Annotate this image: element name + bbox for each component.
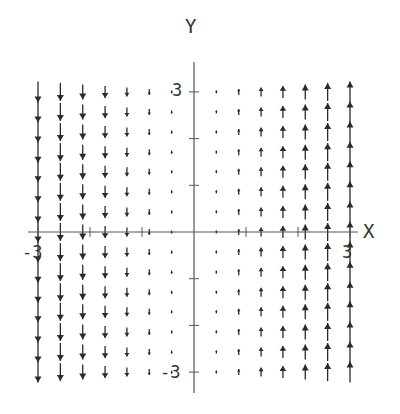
vector-arrow: [79, 164, 86, 179]
vector-arrow: [79, 184, 86, 199]
vector-arrow: [35, 201, 42, 222]
vector-arrow: [302, 265, 309, 280]
vector-field-plot: Y X -3 3 3 -3: [0, 0, 400, 414]
vector-arrow: [79, 365, 86, 380]
vector-arrow: [170, 131, 172, 134]
vector-arrow: [148, 269, 151, 275]
vector-arrow: [148, 249, 151, 255]
vector-arrow: [259, 288, 264, 297]
vector-arrow: [35, 301, 42, 322]
vector-arrow: [259, 368, 264, 377]
vector-arrow: [259, 327, 264, 336]
vector-arrow: [35, 181, 42, 202]
vector-arrow: [280, 366, 287, 378]
vector-arrow: [35, 161, 42, 182]
vector-arrow: [102, 186, 109, 198]
vector-arrow: [259, 348, 264, 357]
vector-arrow: [124, 348, 129, 357]
vector-arrow: [124, 148, 129, 157]
vector-arrow: [170, 351, 172, 354]
vector-arrow: [124, 368, 129, 377]
vector-arrow: [347, 282, 354, 303]
vector-arrow: [259, 207, 264, 216]
vector-arrow: [237, 209, 240, 215]
vector-arrow: [302, 324, 309, 339]
vector-arrow: [324, 303, 331, 321]
vector-arrow: [170, 251, 172, 254]
vector-arrow: [280, 86, 287, 98]
vector-arrow: [215, 351, 217, 354]
y-max-tick-label: 3: [172, 80, 182, 100]
vector-arrow: [79, 84, 86, 99]
vector-arrow: [302, 104, 309, 119]
vector-arrow: [280, 326, 287, 338]
vector-arrow: [215, 210, 217, 213]
vector-arrow: [57, 163, 64, 181]
vector-arrow: [237, 329, 240, 335]
vector-arrow: [347, 301, 354, 322]
vector-arrow: [347, 81, 354, 102]
vector-arrow: [102, 166, 109, 178]
vector-arrow: [102, 366, 109, 378]
vector-arrow: [215, 190, 217, 193]
vector-arrow: [324, 323, 331, 341]
vector-arrow: [237, 369, 240, 375]
vector-arrow: [102, 346, 109, 358]
vector-arrow: [302, 304, 309, 319]
vector-arrow: [237, 189, 240, 195]
vector-arrow: [102, 126, 109, 138]
vector-arrow: [215, 110, 217, 113]
vector-arrow: [57, 183, 64, 201]
vector-arrow: [102, 146, 109, 158]
vector-arrow: [215, 291, 217, 294]
vector-arrow: [35, 282, 42, 303]
vector-arrow: [148, 129, 151, 135]
vector-arrow: [237, 349, 240, 355]
vector-arrow: [57, 83, 64, 101]
vector-arrow: [57, 323, 64, 341]
vector-arrow: [259, 187, 264, 196]
vector-arrow: [280, 346, 287, 358]
vector-arrow: [79, 324, 86, 339]
vector-arrow: [347, 362, 354, 383]
vector-arrow: [79, 304, 86, 319]
vector-arrow: [35, 321, 42, 342]
vector-arrow: [259, 107, 264, 116]
vector-arrow: [35, 122, 42, 143]
vector-arrow: [124, 167, 129, 176]
vector-arrow: [347, 262, 354, 283]
vector-arrow: [124, 327, 129, 336]
vector-arrow: [79, 145, 86, 160]
x-axis-label: X: [363, 220, 375, 242]
vector-arrow: [215, 90, 217, 93]
vector-arrow: [215, 271, 217, 274]
vector-arrow: [302, 125, 309, 140]
vector-arrow: [35, 342, 42, 363]
vector-arrow: [57, 123, 64, 141]
vector-arrow: [124, 288, 129, 297]
vector-arrow: [170, 210, 172, 213]
vector-arrow: [35, 262, 42, 283]
vector-arrow: [215, 251, 217, 254]
vector-arrow: [57, 143, 64, 161]
vector-arrow: [102, 286, 109, 298]
vector-arrow: [79, 345, 86, 360]
vector-arrow: [215, 131, 217, 134]
vector-arrow: [79, 125, 86, 140]
vector-arrow: [57, 363, 64, 381]
vector-arrow: [148, 209, 151, 215]
vector-arrow: [347, 342, 354, 363]
vector-arrow: [347, 101, 354, 122]
vector-arrow: [215, 371, 217, 374]
vector-arrow: [79, 265, 86, 280]
y-axis-label: Y: [185, 15, 197, 37]
vector-arrow: [324, 263, 331, 281]
vector-arrow: [302, 84, 309, 99]
vector-arrow: [302, 204, 309, 219]
vector-arrow: [148, 309, 151, 315]
vector-arrow: [102, 86, 109, 98]
vector-arrow: [347, 321, 354, 342]
vector-arrow: [57, 303, 64, 321]
vector-arrow: [237, 149, 240, 155]
vector-arrow: [148, 149, 151, 155]
